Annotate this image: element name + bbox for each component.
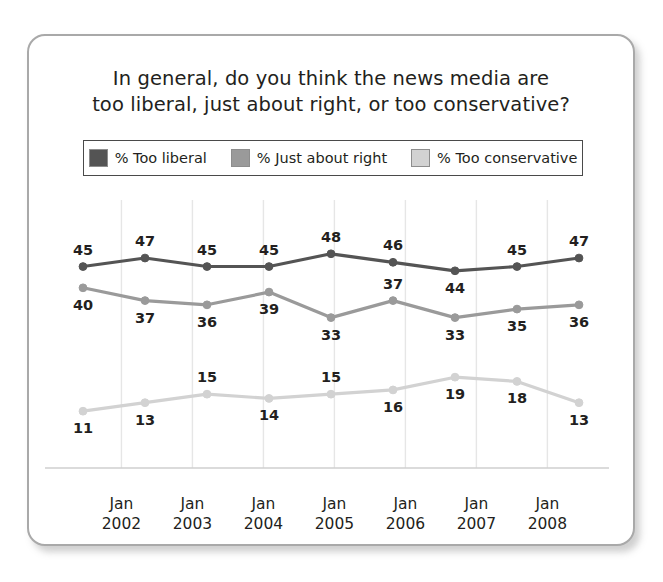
data-label: 13 (569, 412, 589, 428)
data-label: 13 (135, 412, 155, 428)
x-tick-year: 2007 (444, 514, 508, 534)
data-point[interactable] (327, 250, 335, 258)
data-label: 36 (197, 314, 217, 330)
x-tick-2008: Jan2008 (515, 494, 579, 534)
x-tick-month: Jan (322, 495, 346, 513)
data-label: 45 (73, 242, 93, 258)
x-tick-year: 2005 (302, 514, 366, 534)
series-3: 111315141516191813 (73, 369, 589, 436)
data-point[interactable] (451, 314, 459, 322)
legend-item-just-about-right[interactable]: % Just about right (231, 149, 387, 167)
legend-item-too-liberal[interactable]: % Too liberal (89, 149, 207, 167)
data-point[interactable] (389, 386, 397, 394)
data-point[interactable] (389, 258, 397, 266)
legend-swatch-just-about-right (231, 149, 250, 167)
data-point[interactable] (203, 263, 211, 271)
data-label: 45 (507, 242, 527, 258)
legend-label-just-about-right: % Just about right (257, 150, 387, 166)
data-label: 37 (135, 310, 155, 326)
data-label: 36 (569, 314, 589, 330)
x-tick-month: Jan (251, 495, 275, 513)
data-label: 15 (321, 369, 341, 385)
legend-label-too-conservative: % Too conservative (437, 150, 577, 166)
data-label: 45 (259, 242, 279, 258)
legend-swatch-too-liberal (89, 149, 108, 167)
data-point[interactable] (575, 254, 583, 262)
x-tick-year: 2006 (373, 514, 437, 534)
data-label: 18 (507, 390, 527, 406)
data-point[interactable] (265, 263, 273, 271)
data-point[interactable] (141, 399, 149, 407)
title-line-1: In general, do you think the news media … (113, 67, 549, 90)
data-label: 14 (259, 407, 279, 423)
legend-swatch-too-conservative (411, 149, 430, 167)
data-label: 39 (259, 301, 279, 317)
data-point[interactable] (575, 301, 583, 309)
series-2: 403736393337333536 (73, 276, 589, 343)
data-point[interactable] (451, 373, 459, 381)
data-point[interactable] (265, 395, 273, 403)
data-label: 33 (445, 327, 465, 343)
data-label: 46 (383, 237, 403, 253)
data-label: 35 (507, 318, 527, 334)
data-label: 37 (383, 276, 403, 292)
data-label: 33 (321, 327, 341, 343)
data-label: 45 (197, 242, 217, 258)
x-tick-year: 2002 (89, 514, 153, 534)
data-point[interactable] (265, 288, 273, 296)
data-label: 47 (569, 233, 589, 249)
series-1: 454745454846444547 (73, 229, 589, 296)
legend-item-too-conservative[interactable]: % Too conservative (411, 149, 577, 167)
data-point[interactable] (141, 297, 149, 305)
chart-card: In general, do you think the news media … (27, 34, 635, 546)
x-tick-year: 2008 (515, 514, 579, 534)
data-point[interactable] (79, 263, 87, 271)
chart-legend: % Too liberal % Just about right % Too c… (83, 140, 583, 176)
data-point[interactable] (79, 284, 87, 292)
chart-svg: 4547454548464445474037363933373335361113… (41, 196, 625, 486)
x-tick-2005: Jan2005 (302, 494, 366, 534)
data-point[interactable] (79, 407, 87, 415)
data-point[interactable] (203, 390, 211, 398)
data-point[interactable] (203, 301, 211, 309)
x-tick-2007: Jan2007 (444, 494, 508, 534)
x-tick-2003: Jan2003 (160, 494, 224, 534)
data-point[interactable] (513, 378, 521, 386)
data-point[interactable] (575, 399, 583, 407)
legend-label-too-liberal: % Too liberal (115, 150, 207, 166)
data-label: 44 (445, 280, 465, 296)
data-point[interactable] (513, 263, 521, 271)
data-point[interactable] (513, 305, 521, 313)
data-point[interactable] (327, 390, 335, 398)
data-label: 48 (321, 229, 341, 245)
series-line (83, 288, 579, 318)
data-point[interactable] (451, 267, 459, 275)
x-tick-year: 2003 (160, 514, 224, 534)
x-tick-2002: Jan2002 (89, 494, 153, 534)
x-tick-month: Jan (393, 495, 417, 513)
data-label: 15 (197, 369, 217, 385)
x-axis-labels: Jan2002Jan2003Jan2004Jan2005Jan2006Jan20… (41, 488, 625, 546)
data-point[interactable] (389, 297, 397, 305)
page-title: In general, do you think the news media … (29, 66, 633, 118)
data-point[interactable] (327, 314, 335, 322)
x-tick-month: Jan (535, 495, 559, 513)
line-chart-plot-area: 4547454548464445474037363933373335361113… (41, 196, 625, 486)
x-tick-2004: Jan2004 (231, 494, 295, 534)
x-tick-month: Jan (180, 495, 204, 513)
title-line-2: too liberal, just about right, or too co… (29, 92, 633, 118)
data-label: 40 (73, 297, 93, 313)
data-label: 19 (445, 386, 465, 402)
data-label: 47 (135, 233, 155, 249)
data-label: 16 (383, 399, 403, 415)
data-label: 11 (73, 420, 93, 436)
data-point[interactable] (141, 254, 149, 262)
x-tick-2006: Jan2006 (373, 494, 437, 534)
x-tick-month: Jan (464, 495, 488, 513)
x-tick-month: Jan (109, 495, 133, 513)
x-tick-year: 2004 (231, 514, 295, 534)
